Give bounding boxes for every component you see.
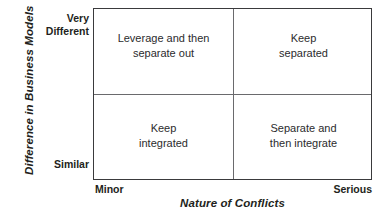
quadrant-top-right-label: Keep separated [279, 31, 328, 61]
quadrant-bottom-left-label: Keep integrated [139, 121, 188, 151]
quadrant-top-right: Keep separated [234, 9, 373, 94]
x-axis-tick-label-right: Serious [333, 183, 372, 195]
quadrant-top-left-label: Leverage and then separate out [118, 31, 210, 61]
quadrant-bottom-left: Keep integrated [94, 95, 233, 181]
x-axis-title: Nature of Conflicts [93, 197, 372, 209]
quadrant-top-left: Leverage and then separate out [94, 9, 233, 94]
quadrant-bottom-right-label: Separate and then integrate [270, 121, 337, 151]
y-axis-tick-label-top: Very Different [0, 12, 89, 37]
x-axis-tick-label-left: Minor [95, 183, 124, 195]
plot-area: Leverage and then separate out Keep sepa… [93, 8, 372, 180]
quadrant-matrix-figure: Difference in Business Models Very Diffe… [0, 0, 390, 215]
y-axis-tick-label-bottom: Similar [0, 158, 89, 171]
quadrant-bottom-right: Separate and then integrate [234, 95, 373, 181]
